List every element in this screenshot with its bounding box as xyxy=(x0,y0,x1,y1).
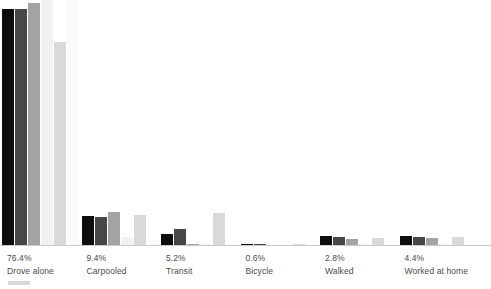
category-value: 5.2% xyxy=(166,252,192,265)
bar-group xyxy=(400,0,478,246)
bar-group xyxy=(82,0,160,246)
bar-group xyxy=(161,0,239,246)
category-name: Transit xyxy=(166,265,192,278)
category-label: 0.6% Bicycle xyxy=(246,252,274,277)
bar xyxy=(28,3,40,246)
category-name: Worked at home xyxy=(405,265,469,278)
category-value: 4.4% xyxy=(405,252,469,265)
category-name: Carpooled xyxy=(87,265,127,278)
bar xyxy=(82,216,94,246)
category-label: 76.4% Drove alone xyxy=(7,252,54,277)
category-labels: 76.4% Drove alone 9.4% Carpooled 5.2% Tr… xyxy=(0,246,491,289)
bar xyxy=(213,213,225,246)
category-name: Drove alone xyxy=(7,265,54,278)
category-value: 2.8% xyxy=(325,252,354,265)
legend-swatch xyxy=(8,281,30,285)
bar xyxy=(2,9,14,246)
bar-group xyxy=(2,0,80,246)
bar xyxy=(95,217,107,246)
bar xyxy=(108,212,120,246)
bar xyxy=(134,215,146,246)
grouped-bar-chart: 76.4% Drove alone 9.4% Carpooled 5.2% Tr… xyxy=(0,0,491,289)
bar xyxy=(174,229,186,246)
bar xyxy=(41,0,53,246)
category-label: 5.2% Transit xyxy=(166,252,192,277)
category-label: 2.8% Walked xyxy=(325,252,354,277)
bar-group xyxy=(320,0,398,246)
bar-group xyxy=(241,0,319,246)
category-name: Bicycle xyxy=(246,265,274,278)
category-label: 4.4% Worked at home xyxy=(405,252,469,277)
category-value: 76.4% xyxy=(7,252,54,265)
category-value: 0.6% xyxy=(246,252,274,265)
plot-area xyxy=(0,0,491,246)
bar xyxy=(15,9,27,246)
legend xyxy=(8,279,68,287)
bar xyxy=(54,42,66,246)
category-value: 9.4% xyxy=(87,252,127,265)
category-label: 9.4% Carpooled xyxy=(87,252,127,277)
bar xyxy=(67,0,79,246)
category-name: Walked xyxy=(325,265,354,278)
